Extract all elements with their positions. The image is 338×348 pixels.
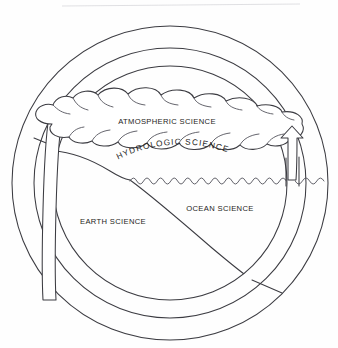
precipitation-band <box>42 116 62 300</box>
evaporation-arrow <box>281 126 303 180</box>
interior-group <box>53 151 286 281</box>
figure-root: HYDROLOGIC SCIENCE ATMOSPHERIC SCIENCE O… <box>0 0 338 348</box>
ring-divider-bottom-right <box>252 280 282 293</box>
atmospheric-science-label: ATMOSPHERIC SCIENCE <box>118 117 216 126</box>
ocean-wave-line <box>130 178 286 184</box>
earth-science-label: EARTH SCIENCE <box>80 217 146 226</box>
land-slope-line <box>130 180 254 281</box>
hydrologic-cycle-diagram: HYDROLOGIC SCIENCE ATMOSPHERIC SCIENCE O… <box>0 0 338 348</box>
middle-circle <box>34 48 306 318</box>
ocean-science-label: OCEAN SCIENCE <box>186 204 253 213</box>
scan-artifact <box>62 4 300 6</box>
